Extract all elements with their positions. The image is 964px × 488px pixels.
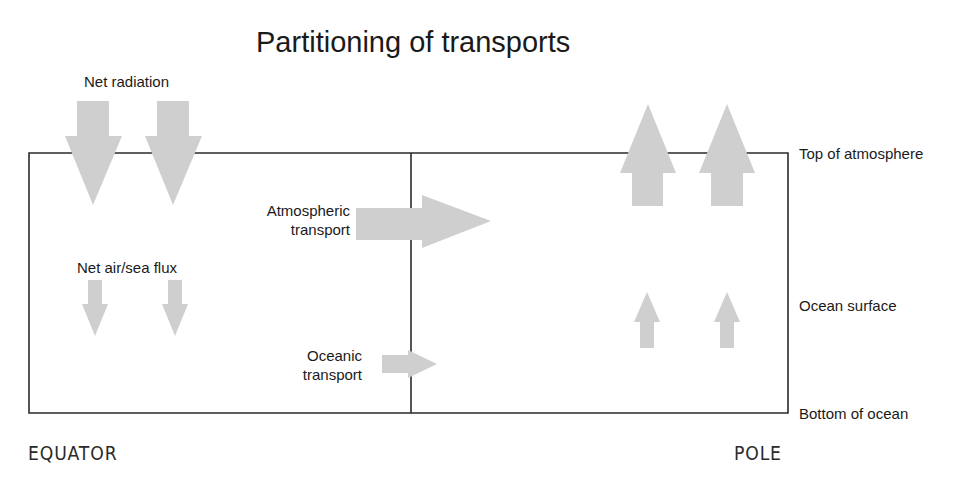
pole-ocean-flux-arrow-1 <box>634 292 660 348</box>
diagram-title: Partitioning of transports <box>256 26 570 59</box>
net-air-sea-flux-arrow-1 <box>82 280 108 336</box>
pole-radiation-arrow-2 <box>699 104 755 206</box>
top-of-atmosphere-label: Top of atmosphere <box>799 145 923 162</box>
oceanic-transport-arrow <box>382 350 437 378</box>
net-radiation-arrow-2 <box>145 101 202 205</box>
atmospheric-transport-label: Atmospheric transport <box>252 201 350 239</box>
oceanic-transport-label-line1: Oceanic <box>282 346 362 365</box>
pole-radiation-arrow-1 <box>620 104 676 206</box>
atmospheric-transport-label-line2: transport <box>252 220 350 239</box>
net-air-sea-flux-label: Net air/sea flux <box>77 258 177 277</box>
atmospheric-transport-label-line1: Atmospheric <box>252 201 350 220</box>
oceanic-transport-label-line2: transport <box>282 365 362 384</box>
oceanic-transport-label: Oceanic transport <box>282 346 362 384</box>
pole-ocean-flux-arrow-2 <box>714 292 740 348</box>
bottom-of-ocean-label: Bottom of ocean <box>799 405 908 422</box>
net-radiation-label: Net radiation <box>84 72 169 91</box>
atmospheric-transport-arrow <box>356 195 491 248</box>
pole-label: POLE <box>734 441 782 465</box>
equator-label: EQUATOR <box>28 441 117 465</box>
net-air-sea-flux-arrow-2 <box>162 280 188 336</box>
net-radiation-arrow-1 <box>65 101 122 205</box>
ocean-surface-label: Ocean surface <box>799 297 897 314</box>
